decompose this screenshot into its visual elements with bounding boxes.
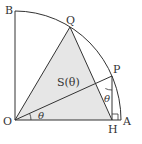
angle-label-O: θ	[38, 110, 44, 121]
area-label: S(θ)	[57, 76, 80, 89]
label-A: A	[122, 115, 132, 128]
label-O: O	[3, 115, 12, 128]
angle-arc-P	[105, 89, 112, 91]
label-H: H	[108, 123, 118, 136]
angle-label-P: θ	[104, 93, 110, 104]
label-Q: Q	[66, 14, 75, 27]
label-P: P	[113, 63, 121, 76]
quarter-circle-diagram: B Q P O A H S(θ) θ θ	[0, 0, 142, 144]
right-angle-marker	[112, 114, 118, 120]
triangle-OQH-fill	[15, 27, 112, 120]
label-B: B	[5, 4, 13, 17]
